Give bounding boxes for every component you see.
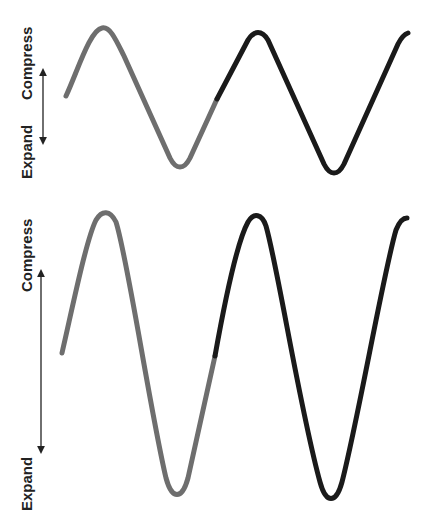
top-expand-label: Expand bbox=[18, 125, 35, 179]
top-wave-first-cycle bbox=[66, 28, 217, 167]
bottom-wave-first-cycle bbox=[62, 213, 215, 495]
sound-wave-diagram: Compress Expand Compress Expand bbox=[0, 0, 421, 519]
top-compress-label: Compress bbox=[18, 27, 35, 100]
top-panel: Compress Expand bbox=[18, 27, 408, 179]
bottom-expand-label: Expand bbox=[18, 457, 35, 511]
top-wave-second-cycle bbox=[217, 33, 408, 174]
bottom-panel: Compress Expand bbox=[18, 213, 407, 511]
bottom-compress-label: Compress bbox=[18, 219, 35, 292]
bottom-wave-second-cycle bbox=[215, 216, 407, 499]
